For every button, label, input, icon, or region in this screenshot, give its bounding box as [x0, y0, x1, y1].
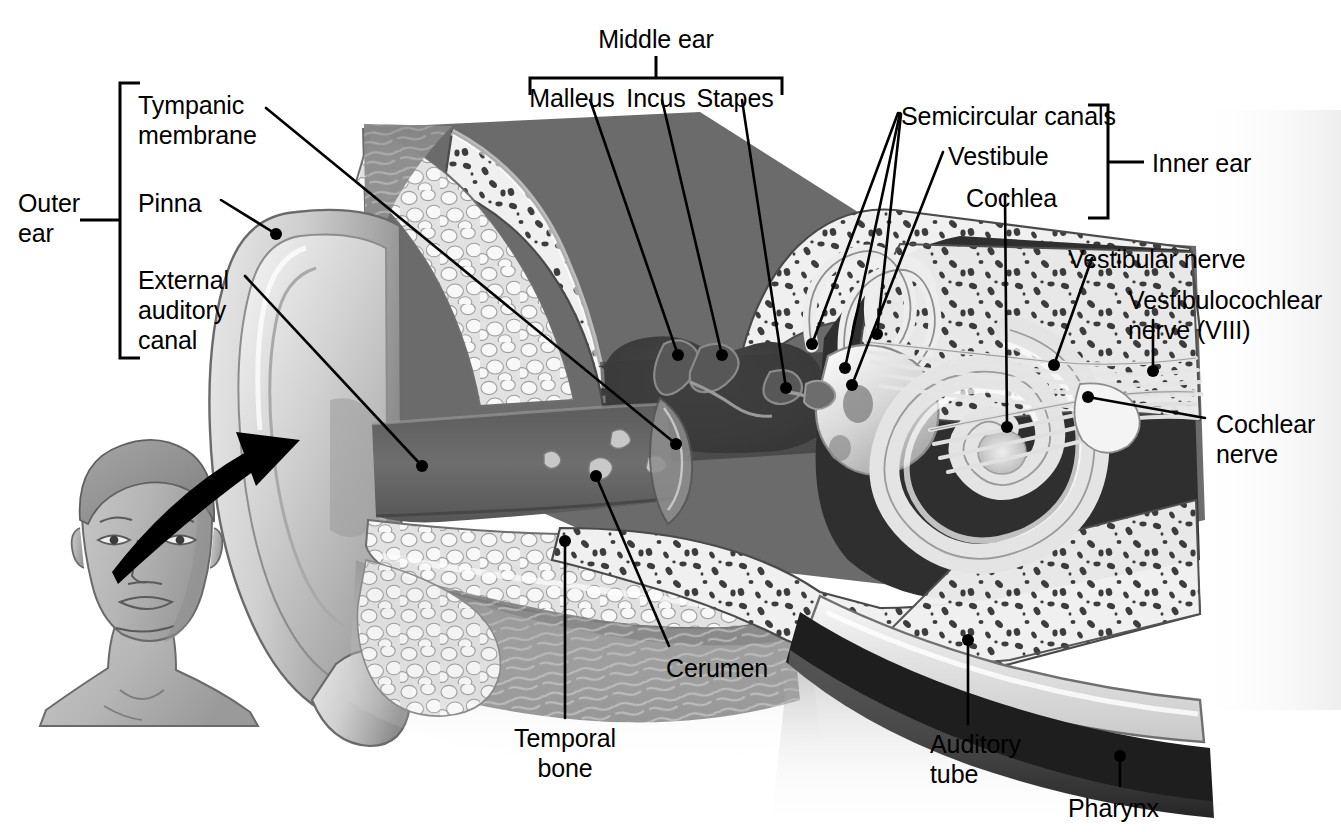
label-vestibule: Vestibule	[948, 141, 1049, 171]
label-semicircular-canals: Semicircular canals	[901, 101, 1116, 131]
label-auditory-tube: Auditory tube	[930, 729, 1021, 789]
label-cochlear-nerve: Cochlear nerve	[1216, 409, 1315, 469]
pinna-leader	[221, 200, 276, 234]
label-temporal-bone: Temporal bone	[465, 723, 665, 783]
concha-shadow	[330, 398, 380, 537]
label-vestibulocochlear-nerve: Vestibulocochlear nerve (VIII)	[1128, 285, 1322, 345]
label-pharynx: Pharynx	[1068, 793, 1159, 823]
label-cochlea: Cochlea	[966, 183, 1057, 213]
label-external-auditory-canal: External auditory canal	[138, 265, 229, 355]
label-inner-ear: Inner ear	[1152, 148, 1251, 178]
label-middle-ear: Middle ear	[546, 24, 766, 54]
label-cerumen: Cerumen	[666, 653, 768, 683]
label-vestibular-nerve: Vestibular nerve	[1068, 244, 1246, 274]
ear-anatomy-figure: Outer ear Tympanic membrane Pinna Extern…	[0, 0, 1341, 832]
oval-window	[804, 381, 835, 409]
bracket-outer-ear	[80, 83, 140, 358]
label-outer-ear: Outer ear	[18, 188, 80, 248]
label-stapes: Stapes	[670, 83, 800, 113]
label-pinna: Pinna	[138, 188, 201, 218]
label-tympanic-membrane: Tympanic membrane	[138, 90, 257, 150]
